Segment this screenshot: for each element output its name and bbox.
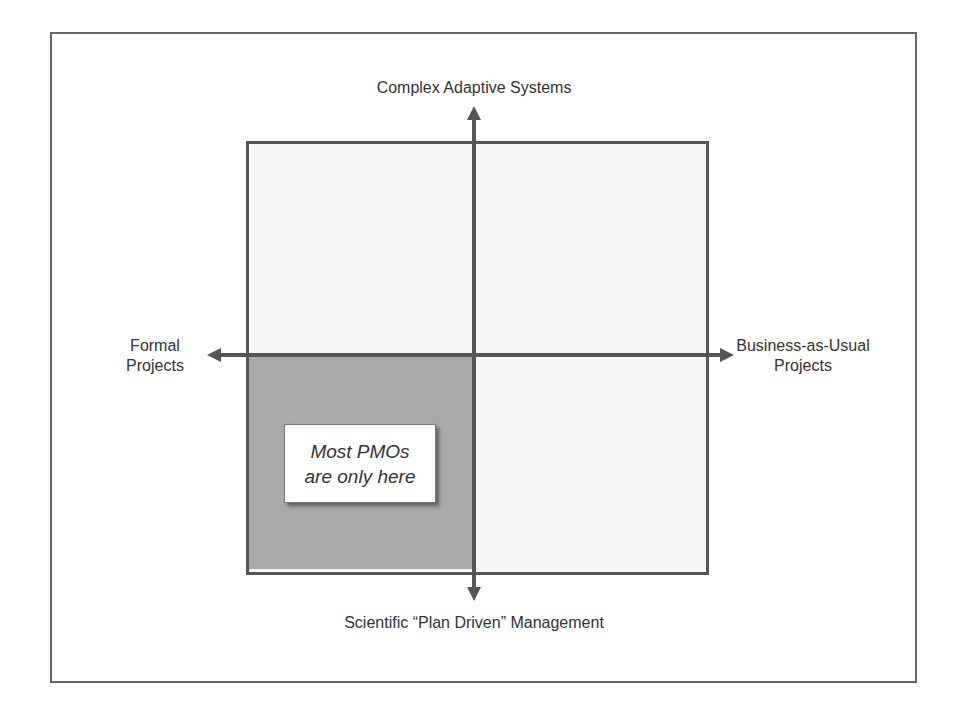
horizontal-axis bbox=[218, 353, 723, 357]
callout-line-1: Most PMOs bbox=[310, 439, 409, 464]
axis-label-left-line-2: Projects bbox=[100, 356, 210, 376]
axis-label-right-line-2: Projects bbox=[728, 356, 878, 376]
axis-label-right: Business-as-Usual Projects bbox=[728, 336, 878, 376]
callout-line-2: are only here bbox=[305, 464, 416, 489]
axis-label-right-line-1: Business-as-Usual bbox=[728, 336, 878, 356]
arrow-up-icon bbox=[467, 106, 481, 120]
axis-label-left: Formal Projects bbox=[100, 336, 210, 376]
axis-label-bottom: Scientific “Plan Driven” Management bbox=[300, 613, 648, 633]
arrow-down-icon bbox=[467, 587, 481, 601]
pmo-callout-box: Most PMOs are only here bbox=[284, 424, 436, 503]
axis-label-top: Complex Adaptive Systems bbox=[300, 78, 648, 98]
axis-label-left-line-1: Formal bbox=[100, 336, 210, 356]
